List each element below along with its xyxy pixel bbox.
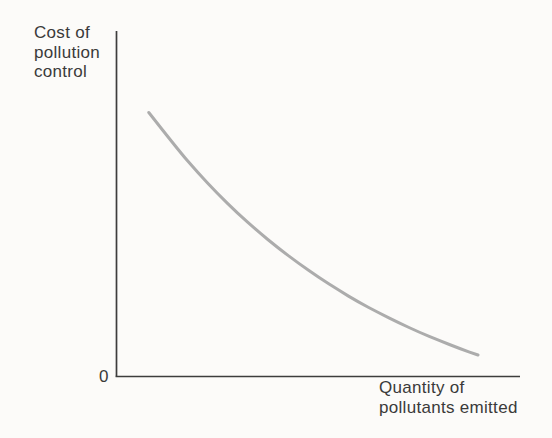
origin-zero-label: 0 — [99, 367, 109, 387]
y-axis-label: Cost of pollution control — [34, 23, 100, 82]
chart-figure: Cost of pollution control 0 Quantity of … — [0, 0, 552, 438]
cost-curve — [149, 113, 478, 356]
x-axis-label: Quantity of pollutants emitted — [379, 378, 518, 417]
